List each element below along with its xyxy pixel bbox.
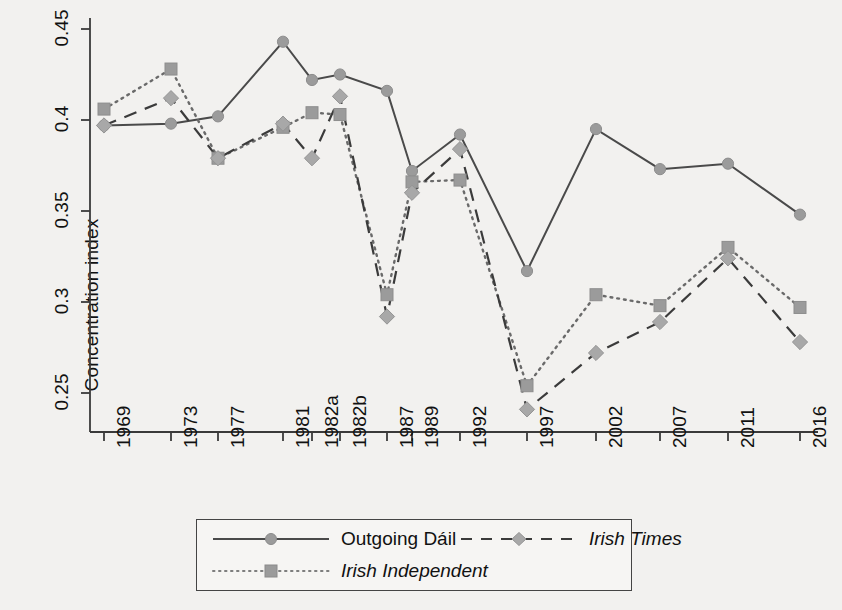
- legend-key-solid-circle: [211, 530, 331, 548]
- data-point: [306, 74, 317, 85]
- legend-item-irish-times[interactable]: Irish Times: [459, 528, 682, 550]
- data-point: [379, 309, 394, 324]
- data-point: [277, 36, 288, 47]
- x-tick-label: 2011: [737, 407, 759, 448]
- data-point: [304, 151, 319, 166]
- data-point: [590, 124, 601, 135]
- y-tick-label: 0.4: [51, 97, 73, 141]
- x-tick-label: 1982a: [321, 395, 343, 448]
- data-point: [334, 69, 345, 80]
- legend-key-dotted-square: [211, 562, 331, 580]
- y-tick-label: 0.35: [51, 188, 73, 232]
- data-point: [381, 289, 393, 301]
- legend-label-irish-independent: Irish Independent: [341, 560, 488, 582]
- y-tick-label: 0.3: [51, 279, 73, 323]
- data-point: [406, 165, 417, 176]
- legend-item-outgoing-dail[interactable]: Outgoing Dáil: [211, 528, 456, 550]
- y-tick-label: 0.25: [51, 370, 73, 414]
- data-point: [454, 129, 465, 140]
- data-point: [334, 109, 346, 121]
- x-tick-label: 1973: [180, 406, 202, 448]
- legend-label-irish-times: Irish Times: [589, 528, 682, 550]
- x-tick-label: 1987: [396, 406, 418, 448]
- data-point: [521, 380, 533, 392]
- data-point: [212, 111, 223, 122]
- data-point: [590, 289, 602, 301]
- x-tick-label: 1982b: [349, 395, 371, 448]
- data-point: [722, 158, 733, 169]
- data-point: [332, 89, 347, 104]
- x-tick-label: 2002: [605, 406, 627, 448]
- x-tick-label: 1997: [536, 406, 558, 448]
- data-point: [519, 402, 534, 417]
- y-tick-label: 0.45: [51, 6, 73, 50]
- data-point: [306, 107, 318, 119]
- data-point: [654, 164, 665, 175]
- chart-figure: Concentration index 0.250.30.350.40.45 1…: [0, 0, 842, 610]
- legend-key-dashed-diamond: [459, 530, 579, 548]
- data-point: [794, 209, 805, 220]
- data-point: [98, 103, 110, 115]
- x-tick-label: 1969: [113, 406, 135, 448]
- data-point: [96, 118, 111, 133]
- data-point: [794, 301, 806, 313]
- x-tick-label: 2016: [809, 406, 831, 448]
- data-point: [165, 63, 177, 75]
- legend-item-irish-independent[interactable]: Irish Independent: [211, 560, 488, 582]
- x-tick-label: 1977: [227, 406, 249, 448]
- x-tick-label: 2007: [669, 406, 691, 448]
- data-point: [454, 174, 466, 186]
- data-point: [163, 91, 178, 106]
- data-point: [654, 300, 666, 312]
- data-point: [521, 265, 532, 276]
- x-tick-label: 1981: [292, 406, 314, 448]
- data-point: [381, 85, 392, 96]
- x-tick-label: 1989: [421, 406, 443, 448]
- legend-label-outgoing-dail: Outgoing Dáil: [341, 528, 456, 550]
- chart-legend: Outgoing Dáil Irish Times Irish Independ…: [196, 519, 632, 591]
- x-tick-label: 1992: [469, 406, 491, 448]
- data-point: [165, 118, 176, 129]
